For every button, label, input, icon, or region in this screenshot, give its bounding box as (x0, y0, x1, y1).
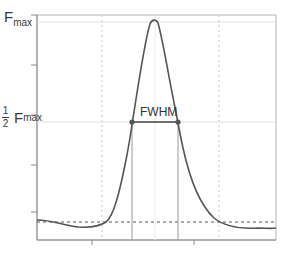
one-half-fraction: 1 2 (2, 106, 9, 129)
fwhm-label: FWHM (140, 105, 177, 119)
signal-curve (37, 20, 276, 228)
fwhm-right-point (175, 119, 180, 124)
half-fmax-label: 1 2 Fmax (2, 106, 42, 129)
fmax-label: Fmax (4, 8, 32, 28)
plot-frame (37, 15, 276, 240)
x-ticks (92, 240, 194, 245)
fwhm-left-point (129, 119, 134, 124)
fwhm-chart (0, 0, 290, 260)
